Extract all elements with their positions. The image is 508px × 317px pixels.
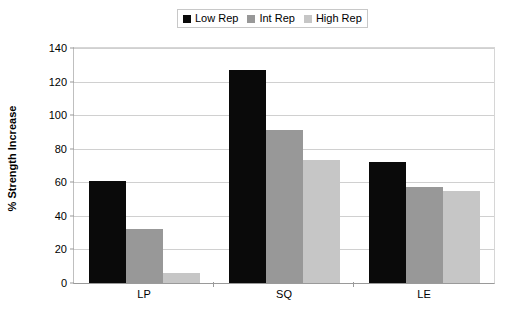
legend-label-high-rep: High Rep bbox=[316, 13, 362, 24]
y-tick-label-120: 120 bbox=[49, 76, 67, 87]
legend-swatch-int-rep bbox=[247, 15, 255, 23]
y-axis-title: % Strength Increase bbox=[2, 0, 22, 317]
plot-area: 140120100806040200 bbox=[73, 47, 495, 284]
bar-lp-low-rep bbox=[89, 181, 126, 283]
y-tick-label-60: 60 bbox=[55, 177, 67, 188]
bar-chart: Low Rep Int Rep High Rep % Strength Incr… bbox=[0, 0, 508, 317]
y-tick-label-40: 40 bbox=[55, 210, 67, 221]
bar-group-lp bbox=[74, 48, 214, 283]
bar-sq-int-rep bbox=[266, 130, 303, 283]
x-axis-label-le: LE bbox=[354, 288, 494, 300]
legend-label-int-rep: Int Rep bbox=[259, 13, 294, 24]
x-axis-label-lp: LP bbox=[74, 288, 214, 300]
y-tick-label-100: 100 bbox=[49, 110, 67, 121]
chart-legend: Low Rep Int Rep High Rep bbox=[177, 9, 368, 28]
y-tick-label-80: 80 bbox=[55, 143, 67, 154]
legend-swatch-low-rep bbox=[183, 15, 191, 23]
bar-group-sq bbox=[214, 48, 354, 283]
x-axis-labels: LPSQLE bbox=[74, 288, 494, 300]
bar-lp-int-rep bbox=[126, 229, 163, 283]
bar-group-le bbox=[354, 48, 494, 283]
bar-lp-high-rep bbox=[163, 273, 200, 283]
bar-sq-high-rep bbox=[303, 160, 340, 283]
legend-item-low-rep: Low Rep bbox=[183, 13, 238, 24]
y-tick-label-20: 20 bbox=[55, 244, 67, 255]
legend-swatch-high-rep bbox=[304, 15, 312, 23]
bars-layer bbox=[74, 48, 494, 283]
bar-sq-low-rep bbox=[229, 70, 266, 283]
y-tick-label-140: 140 bbox=[49, 43, 67, 54]
legend-item-int-rep: Int Rep bbox=[247, 13, 294, 24]
gridline-0 bbox=[74, 283, 494, 284]
legend-item-high-rep: High Rep bbox=[304, 13, 362, 24]
bar-le-low-rep bbox=[369, 162, 406, 283]
x-axis-label-sq: SQ bbox=[214, 288, 354, 300]
bar-le-high-rep bbox=[443, 191, 480, 283]
y-tick-label-0: 0 bbox=[61, 278, 67, 289]
bar-le-int-rep bbox=[406, 187, 443, 283]
legend-label-low-rep: Low Rep bbox=[195, 13, 238, 24]
